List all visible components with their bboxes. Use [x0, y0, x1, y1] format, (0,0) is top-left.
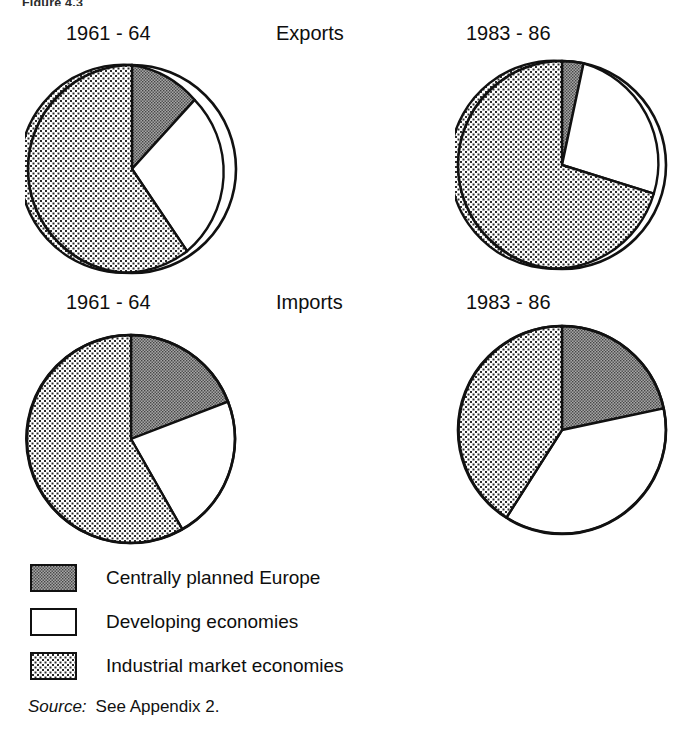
figure-caption: Figure 4.3 — [22, 0, 83, 6]
imports-left-period-label: 1961 - 64 — [66, 291, 151, 314]
legend-item-industrial-market-economies: Industrial market economies — [30, 644, 460, 688]
legend-item-developing-economies: Developing economies — [30, 600, 460, 644]
legend-item-centrally-planned-europe: Centrally planned Europe — [30, 556, 460, 600]
imports-label-row: 1961 - 64 Imports 1983 - 86 — [0, 291, 694, 319]
exports-label-row: 1961 - 64 Exports 1983 - 86 — [0, 22, 694, 50]
source-value: See Appendix 2. — [96, 697, 220, 716]
pie-chart-exports-1983-86 — [455, 56, 669, 274]
pie-chart-imports-1983-86 — [455, 321, 669, 539]
pie-chart-exports-1961-64 — [25, 60, 239, 278]
exports-panel-title: Exports — [276, 22, 344, 45]
source-note: Source:See Appendix 2. — [28, 697, 219, 717]
legend-label-developing-economies: Developing economies — [106, 611, 298, 633]
exports-right-period-label: 1983 - 86 — [466, 22, 551, 45]
light-dotted-swatch — [30, 652, 77, 680]
imports-right-period-label: 1983 - 86 — [466, 291, 551, 314]
exports-left-period-label: 1961 - 64 — [66, 22, 151, 45]
dark-dotted-swatch — [30, 564, 77, 592]
chart-legend: Centrally planned Europe Developing econ… — [30, 556, 460, 688]
legend-label-industrial-market-economies: Industrial market economies — [106, 655, 344, 677]
legend-label-centrally-planned-europe: Centrally planned Europe — [106, 567, 320, 589]
pie-chart-imports-1961-64 — [24, 330, 238, 548]
white-swatch — [30, 608, 77, 636]
imports-panel-title: Imports — [276, 291, 343, 314]
source-label: Source: — [28, 697, 87, 716]
